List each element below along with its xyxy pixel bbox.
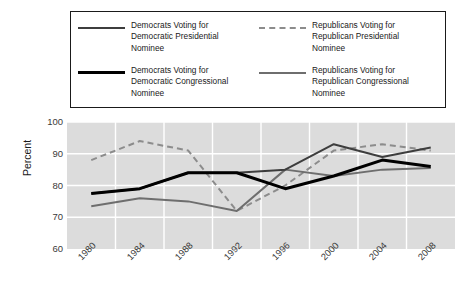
x-axis-tick-label: 1996 xyxy=(270,240,292,262)
x-axis-tick-label: 2008 xyxy=(416,240,438,262)
x-axis-tick-label: 1984 xyxy=(125,240,147,262)
x-axis-tick-label: 1992 xyxy=(222,240,244,262)
x-axis-tick-label: 1988 xyxy=(173,240,195,262)
x-axis-tick-label: 2000 xyxy=(319,240,341,262)
x-axis-tick-labels: 19801984198819921996200020042008 xyxy=(0,0,472,295)
x-axis-tick-label: 1980 xyxy=(76,240,98,262)
chart-figure: Democrats Voting for Democratic Presiden… xyxy=(0,0,472,295)
x-axis-tick-label: 2004 xyxy=(367,240,389,262)
